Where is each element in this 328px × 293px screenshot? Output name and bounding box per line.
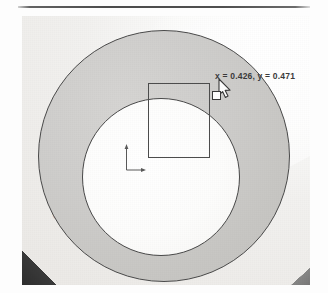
- horizontal-rule: [18, 6, 310, 8]
- selection-rectangle[interactable]: [148, 83, 210, 158]
- page-canvas: m e u tast ol s nirmac x = 0.42: [0, 0, 328, 293]
- origin-axis-marker: [122, 143, 148, 175]
- scan-corner-artifact-right: [290, 267, 310, 285]
- scan-corner-artifact: [22, 251, 56, 285]
- figure-photo: m e u tast ol s nirmac x = 0.42: [22, 16, 310, 285]
- coordinate-readout: x = 0.426, y = 0.471: [215, 71, 295, 81]
- resize-cursor-icon[interactable]: [206, 78, 232, 106]
